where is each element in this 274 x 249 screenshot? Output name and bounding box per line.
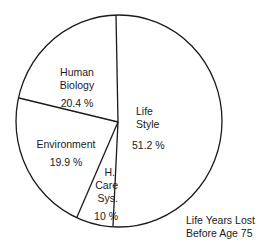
chart-caption: Life Years Lost Before Age 75 [186,214,255,240]
slice-value: 10 % [88,210,118,223]
slice-value: 20.4 % [52,97,102,110]
label-line: Biology [52,79,102,92]
caption-line: Life Years Lost [186,214,255,227]
label-line: Sys. [88,192,118,205]
label-line: Human [52,66,102,79]
caption-line: Before Age 75 [186,227,255,240]
label-line: Style [132,118,165,131]
label-line: Care [88,179,118,192]
pie-outline [16,15,222,227]
label-line: H. [88,166,118,179]
label-line: Life [132,105,165,118]
slice-value: 51.2 % [132,139,165,152]
slice-label-health-care-system: H. Care Sys. 10 % [88,166,118,223]
slice-label-life-style: Life Style 51.2 % [132,105,165,152]
slice-label-environment: Environment 19.9 % [31,138,101,169]
slice-label-human-biology: Human Biology 20.4 % [52,66,102,110]
label-line: Environment [31,138,101,151]
